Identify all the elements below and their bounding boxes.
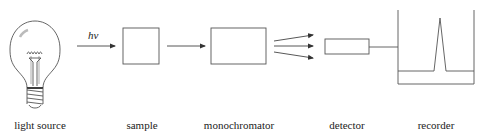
- spectrometer-diagram: hν light source sample monochromator det…: [0, 0, 486, 137]
- light-bulb-icon: [10, 21, 60, 108]
- detector-box: [325, 39, 369, 54]
- label-monochromator: monochromator: [204, 119, 275, 131]
- sample-box: [123, 28, 159, 64]
- label-recorder: recorder: [418, 119, 455, 131]
- recorder-chart: [398, 10, 474, 84]
- label-sample: sample: [126, 119, 157, 131]
- monochromator-box: [211, 28, 266, 64]
- label-detector: detector: [329, 119, 365, 131]
- dispersed-light-arrows: [274, 35, 313, 58]
- photon-label: hν: [88, 29, 99, 41]
- label-light-source: light source: [14, 119, 66, 131]
